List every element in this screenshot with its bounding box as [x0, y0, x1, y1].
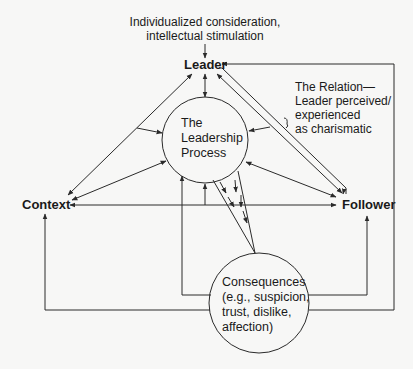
leadership-process-diagram: Individualized consideration, intellectu…	[0, 0, 413, 369]
relation-line2: Leader perceived/	[295, 94, 391, 108]
relation-note: The Relation— Leader perceived/ experien…	[295, 80, 391, 136]
process-line3: Process	[181, 146, 243, 161]
consequences-line2: (e.g., suspicion,	[222, 290, 310, 305]
consequences-circle-text: Consequences (e.g., suspicion, trust, di…	[222, 275, 310, 335]
leader-node: Leader	[184, 57, 227, 72]
relation-line4: as charismatic	[295, 122, 391, 136]
top-note: Individualized consideration, intellectu…	[128, 15, 282, 43]
relation-line1: The Relation—	[295, 80, 391, 94]
process-circle-text: The Leadership Process	[181, 116, 243, 161]
process-line1: The	[181, 116, 243, 131]
context-node: Context	[22, 197, 70, 212]
follower-node: Follower	[342, 197, 395, 212]
process-line2: Leadership	[181, 131, 243, 146]
consequences-line3: trust, dislike,	[222, 305, 310, 320]
consequences-line1: Consequences	[222, 275, 310, 290]
consequences-line4: affection)	[222, 320, 310, 335]
relation-line3: experienced	[295, 108, 391, 122]
top-note-line2: intellectual stimulation	[128, 29, 282, 43]
top-note-line1: Individualized consideration,	[128, 15, 282, 29]
diagram-connectors	[0, 0, 413, 369]
